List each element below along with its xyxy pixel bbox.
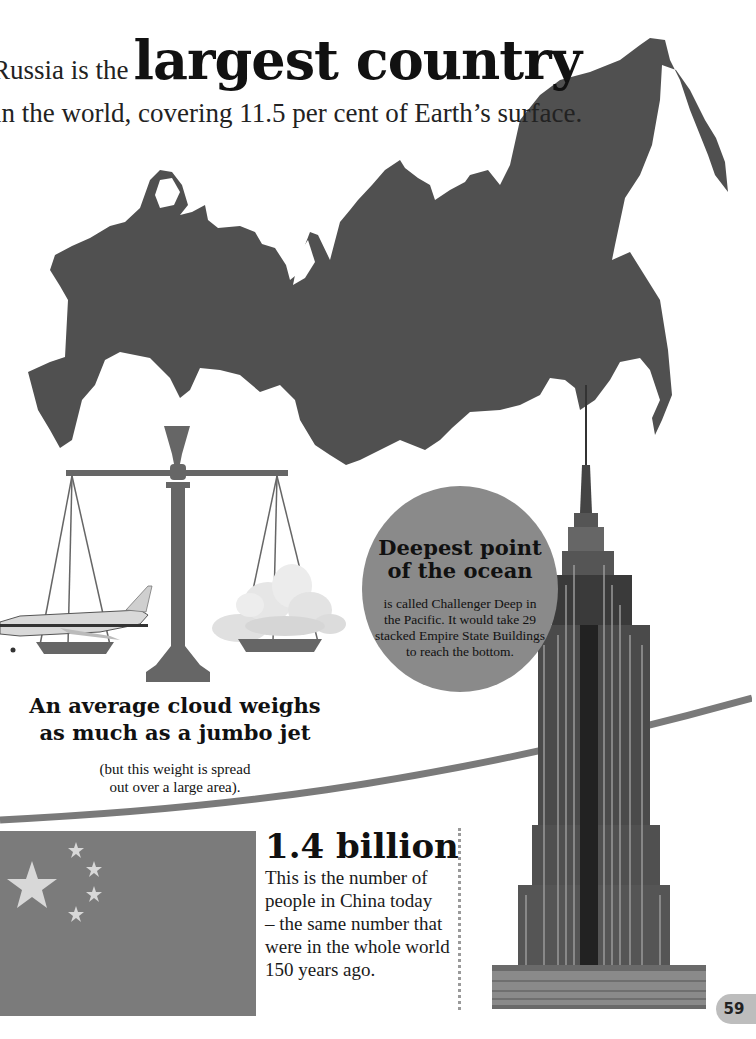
china-fact-body-line3: – the same number that: [265, 912, 485, 935]
small-star-icon: [86, 861, 102, 877]
balance-scale-illustration: [0, 410, 360, 690]
china-fact-body-line5: 150 years ago.: [265, 958, 485, 981]
ocean-fact-body-line2: the Pacific. It would take 29: [362, 612, 558, 628]
ocean-fact-body-line4: to reach the bottom.: [362, 644, 558, 660]
cloud-fact-title: An average cloud weighs as much as a jum…: [0, 692, 350, 746]
cloud-fact-title-line1: An average cloud weighs: [0, 692, 350, 719]
china-population-body: This is the number of people in China to…: [265, 866, 485, 981]
headline-emphasis: largest country: [134, 28, 581, 92]
page-number-tab: 59: [716, 994, 756, 1024]
ocean-fact-title-line2: of the ocean: [362, 559, 558, 582]
large-star-icon: [7, 861, 57, 908]
ocean-fact-title-line1: Deepest point: [362, 536, 558, 559]
china-fact-body-line2: people in China today: [265, 889, 485, 912]
cloud-fact-body: (but this weight is spread out over a la…: [0, 760, 350, 796]
ocean-fact-body-line1: is called Challenger Deep in: [362, 596, 558, 612]
dotted-divider: [458, 828, 461, 1010]
small-star-icon: [68, 906, 84, 922]
headline-subline: in the world, covering 11.5 per cent of …: [0, 98, 582, 129]
china-fact-body-line1: This is the number of: [265, 866, 485, 889]
small-star-icon: [68, 842, 84, 858]
page-number: 59: [724, 1000, 745, 1018]
cloud-fact-body-line2: out over a large area).: [0, 778, 350, 796]
china-flag-illustration: [0, 831, 256, 1016]
ocean-fact-body-line3: stacked Empire State Buildings: [362, 628, 558, 644]
headline: Russia is the largest country: [0, 28, 581, 92]
empire-state-building-illustration: [492, 385, 706, 1015]
headline-prefix: Russia is the: [0, 55, 129, 85]
cloud-icon: [212, 564, 346, 642]
ocean-fact-title: Deepest point of the ocean: [362, 536, 558, 582]
small-star-icon: [86, 886, 102, 902]
ocean-fact-body: is called Challenger Deep in the Pacific…: [362, 596, 558, 660]
cloud-fact-body-line1: (but this weight is spread: [0, 760, 350, 778]
cloud-fact-title-line2: as much as a jumbo jet: [0, 719, 350, 746]
ocean-fact-circle: [362, 486, 558, 692]
china-population-number: 1.4 billion: [265, 826, 459, 866]
china-fact-body-line4: were in the whole world: [265, 935, 485, 958]
